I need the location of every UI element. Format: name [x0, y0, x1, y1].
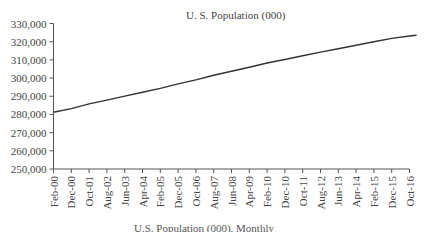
y-tick-label: 290,000 [11, 90, 47, 102]
y-tick-label: 260,000 [11, 145, 47, 157]
x-tick-label: Feb-10 [261, 176, 273, 208]
x-tick-label: Feb-00 [48, 176, 60, 208]
population-line [54, 35, 417, 112]
x-tick-label: Aug-12 [315, 176, 327, 210]
x-tick-label: Oct-16 [404, 176, 416, 207]
chart-caption: U.S. Population (000), Monthly [134, 222, 274, 232]
y-tick-label: 250,000 [11, 163, 47, 175]
y-tick-label: 330,000 [11, 18, 47, 30]
y-axis: 250,000260,000270,000280,000290,000300,0… [11, 18, 54, 176]
x-tick-label: Aug-02 [101, 176, 113, 210]
x-tick-label: Dec-10 [279, 176, 291, 209]
x-tick-label: Oct-06 [190, 176, 202, 207]
x-tick-label: Jun-13 [332, 176, 344, 206]
data-series [54, 35, 417, 112]
x-tick-label: Feb-15 [368, 176, 380, 208]
x-tick-label: Dec-00 [65, 176, 77, 209]
x-tick-label: Apr-14 [350, 176, 362, 208]
x-tick-label: Dec-15 [386, 176, 398, 209]
y-tick-label: 270,000 [11, 127, 47, 139]
x-tick-label: Apr-09 [243, 176, 255, 208]
line-chart: 250,000260,000270,000280,000290,000300,0… [0, 0, 427, 232]
x-tick-label: Jun-03 [119, 176, 131, 206]
x-tick-label: Dec-05 [172, 176, 184, 209]
y-tick-label: 320,000 [11, 36, 47, 48]
x-tick-label: Aug-07 [208, 176, 220, 210]
x-tick-label: Oct-01 [83, 176, 95, 207]
x-axis: Feb-00Dec-00Oct-01Aug-02Jun-03Apr-04Feb-… [48, 169, 416, 210]
x-tick-label: Feb-05 [154, 176, 166, 208]
x-tick-label: Apr-04 [137, 176, 149, 208]
y-tick-label: 280,000 [11, 108, 47, 120]
x-tick-label: Jun-08 [226, 176, 238, 206]
y-tick-label: 300,000 [11, 72, 47, 84]
x-tick-label: Oct-11 [297, 176, 309, 206]
y-tick-label: 310,000 [11, 54, 47, 66]
